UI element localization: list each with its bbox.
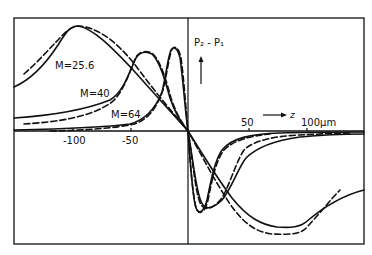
- curve-m64-solid: [14, 48, 364, 212]
- x-axis-label: z: [289, 110, 295, 120]
- y-axis-label: P₂ - P₁: [194, 37, 224, 48]
- label-m64: M=64: [111, 109, 141, 120]
- arrow-up-icon: [199, 56, 204, 84]
- chart: -100 -50 50 100µm P₂ - P₁ z M=25.6 M=40 …: [0, 0, 372, 255]
- tick-label-m100: -100: [63, 135, 86, 146]
- tick-label-m50: -50: [122, 135, 138, 146]
- tick-label-100: 100µm: [301, 117, 336, 128]
- label-m40: M=40: [80, 88, 110, 99]
- arrow-right-icon: [263, 113, 287, 118]
- curve-m40-solid: [14, 52, 364, 207]
- tick-label-50: 50: [241, 117, 254, 128]
- curve-m64-dashed: [50, 47, 270, 212]
- label-m25-6: M=25.6: [55, 60, 94, 71]
